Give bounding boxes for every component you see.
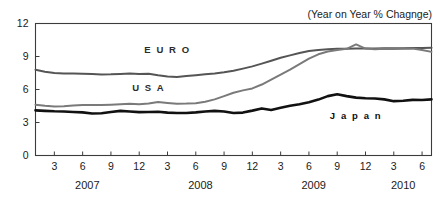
series-label-euro: E U R O xyxy=(144,44,191,55)
y-axis-tick-label: 0 xyxy=(23,149,29,161)
y-axis: 036912 xyxy=(17,17,40,161)
x-axis-tick-label: 9 xyxy=(108,160,114,172)
x-axis-year-label: 2010 xyxy=(391,179,415,191)
x-axis-tick-label: 9 xyxy=(221,160,227,172)
x-axis-year-label: 2007 xyxy=(75,179,99,191)
y-axis-tick-label: 6 xyxy=(23,83,29,95)
x-axis-tick-label: 12 xyxy=(247,160,259,172)
series-line-euro xyxy=(36,48,432,77)
x-axis-year-label: 2008 xyxy=(188,179,212,191)
data-series-group xyxy=(36,44,432,113)
unit-annotation: (Year on Year % Chagnge) xyxy=(307,8,432,20)
x-axis-tick-label: 6 xyxy=(419,160,425,172)
x-axis-tick-label: 9 xyxy=(334,160,340,172)
series-line-usa xyxy=(36,44,432,106)
x-axis-tick-label: 12 xyxy=(360,160,372,172)
x-axis-tick-label: 6 xyxy=(306,160,312,172)
y-axis-tick-label: 12 xyxy=(17,17,29,29)
x-axis-tick-label: 3 xyxy=(391,160,397,172)
x-axis: 369123691236912362007200820092010 xyxy=(51,152,425,191)
series-label-japan: J a p a n xyxy=(330,110,382,121)
x-axis-tick-label: 12 xyxy=(133,160,145,172)
x-axis-tick-label: 3 xyxy=(165,160,171,172)
y-axis-tick-label: 9 xyxy=(23,50,29,62)
line-chart: (Year on Year % Chagnge) 036912 36912369… xyxy=(0,0,445,201)
plot-frame xyxy=(36,24,432,156)
x-axis-tick-label: 6 xyxy=(80,160,86,172)
x-axis-tick-label: 3 xyxy=(51,160,57,172)
y-axis-tick-label: 3 xyxy=(23,116,29,128)
x-axis-year-label: 2009 xyxy=(301,179,325,191)
chart-container: (Year on Year % Chagnge) 036912 36912369… xyxy=(0,0,445,201)
series-label-usa: U S A xyxy=(132,82,165,93)
plot-annotation-group: (Year on Year % Chagnge) xyxy=(307,8,432,20)
x-axis-tick-label: 6 xyxy=(193,160,199,172)
x-axis-tick-label: 3 xyxy=(278,160,284,172)
